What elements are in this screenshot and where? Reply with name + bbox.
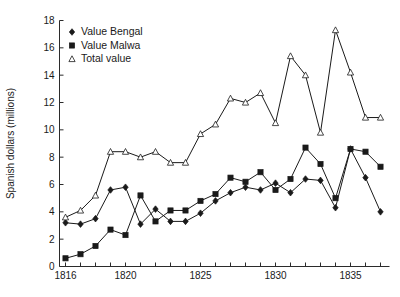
legend-marker-diamond	[69, 29, 74, 36]
data-point	[213, 191, 218, 196]
data-point	[78, 252, 83, 257]
data-point	[318, 161, 323, 166]
data-point	[378, 209, 383, 216]
legend-label: Value Malwa	[81, 39, 140, 51]
data-point	[318, 177, 323, 184]
y-tick-label: 4	[49, 206, 55, 217]
y-tick-label: 2	[49, 234, 55, 245]
data-point	[168, 218, 173, 225]
data-point	[363, 174, 368, 181]
data-point	[363, 149, 368, 154]
x-tick-label: 1835	[339, 270, 362, 281]
data-point	[138, 193, 143, 198]
data-point	[123, 232, 128, 237]
legend-label: Total value	[81, 52, 131, 64]
data-point	[273, 180, 278, 187]
data-point	[243, 179, 248, 184]
x-axis-ticks: 18161820182518301835	[54, 263, 380, 281]
data-point	[333, 196, 338, 201]
data-point	[198, 210, 203, 217]
data-point	[228, 189, 233, 196]
data-point	[62, 214, 68, 220]
data-point	[273, 187, 278, 192]
x-tick-label: 1825	[189, 270, 212, 281]
data-point	[288, 176, 293, 181]
data-point	[287, 53, 293, 59]
data-point	[243, 184, 248, 191]
data-point	[378, 164, 383, 169]
y-tick-label: 6	[49, 179, 55, 190]
data-point	[272, 120, 278, 126]
y-tick-label: 14	[43, 70, 55, 81]
data-point	[333, 204, 338, 211]
data-point	[183, 208, 188, 213]
chart-legend: Value BengalValue MalwaTotal value	[69, 25, 143, 64]
y-tick-label: 18	[43, 15, 55, 26]
data-point	[152, 149, 158, 155]
line-chart: 024681012141618 18161820182518301835 Spa…	[0, 0, 400, 297]
y-tick-label: 12	[43, 97, 55, 108]
y-tick-label: 8	[49, 152, 55, 163]
data-point	[197, 131, 203, 137]
legend-marker-square	[69, 43, 74, 48]
data-point	[213, 198, 218, 205]
data-point	[348, 146, 353, 151]
data-point	[78, 221, 83, 228]
data-point	[212, 121, 218, 127]
legend-label: Value Bengal	[81, 25, 143, 37]
data-point	[93, 215, 98, 222]
data-point	[228, 175, 233, 180]
data-point	[63, 256, 68, 261]
data-point	[332, 27, 338, 33]
data-point	[258, 170, 263, 175]
data-point	[108, 187, 113, 194]
y-tick-label: 16	[43, 42, 55, 53]
data-point	[63, 219, 68, 226]
data-point	[168, 208, 173, 213]
y-tick-label: 10	[43, 124, 55, 135]
data-point	[258, 187, 263, 194]
y-axis-ticks: 024681012141618	[43, 15, 63, 272]
data-point	[227, 95, 233, 101]
x-tick-label: 1820	[114, 270, 137, 281]
data-point	[257, 90, 263, 96]
chart-figure: 024681012141618 18161820182518301835 Spa…	[0, 0, 400, 297]
series-value-malwa	[63, 145, 383, 261]
data-point	[317, 129, 323, 135]
data-point	[153, 219, 158, 224]
data-point	[108, 227, 113, 232]
y-axis-title: Spanish dollars (millions)	[5, 88, 16, 199]
data-point	[93, 243, 98, 248]
data-point	[92, 192, 98, 198]
data-point	[123, 184, 128, 191]
data-point	[347, 69, 353, 75]
data-point	[303, 145, 308, 150]
legend-marker-triangle-open	[69, 56, 75, 62]
data-point	[198, 198, 203, 203]
x-tick-label: 1830	[264, 270, 287, 281]
data-point	[183, 218, 188, 225]
x-tick-label: 1816	[54, 270, 77, 281]
